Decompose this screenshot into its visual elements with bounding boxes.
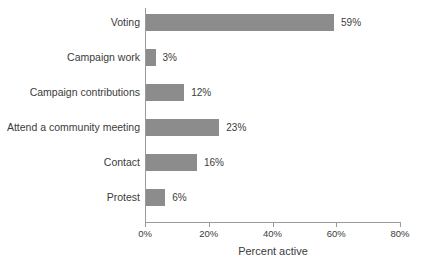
bar [146,119,219,136]
bar-chart: Voting59%Campaign work3%Campaign contrib… [0,0,421,268]
bar-row: Contact16% [0,154,421,171]
x-tick-mark [400,223,401,227]
category-label: Protest [107,189,140,206]
bar [146,189,165,206]
bar-row: Attend a community meeting23% [0,119,421,136]
x-tick-mark [145,223,146,227]
x-tick-label: 20% [189,228,229,239]
bar-value-label: 23% [226,119,246,136]
bar-value-label: 3% [163,49,177,66]
x-tick-label: 80% [380,228,420,239]
bar-value-label: 6% [172,189,186,206]
x-tick-label: 40% [253,228,293,239]
bar-row: Campaign work3% [0,49,421,66]
bar-row: Protest6% [0,189,421,206]
y-axis-line [145,8,146,223]
category-label: Voting [111,14,140,31]
x-axis-title: Percent active [145,245,401,257]
x-tick-mark [273,223,274,227]
category-label: Contact [104,154,140,171]
bar-value-label: 16% [204,154,224,171]
bar [146,84,184,101]
bar [146,14,334,31]
x-tick-mark [336,223,337,227]
x-tick-mark [209,223,210,227]
bar [146,154,197,171]
bar [146,49,156,66]
bar-value-label: 12% [191,84,211,101]
bar-row: Campaign contributions12% [0,84,421,101]
category-label: Campaign work [67,49,140,66]
bar-value-label: 59% [341,14,361,31]
x-tick-label: 0% [125,228,165,239]
category-label: Attend a community meeting [7,119,140,136]
bar-row: Voting59% [0,14,421,31]
category-label: Campaign contributions [30,84,140,101]
x-tick-label: 60% [316,228,356,239]
